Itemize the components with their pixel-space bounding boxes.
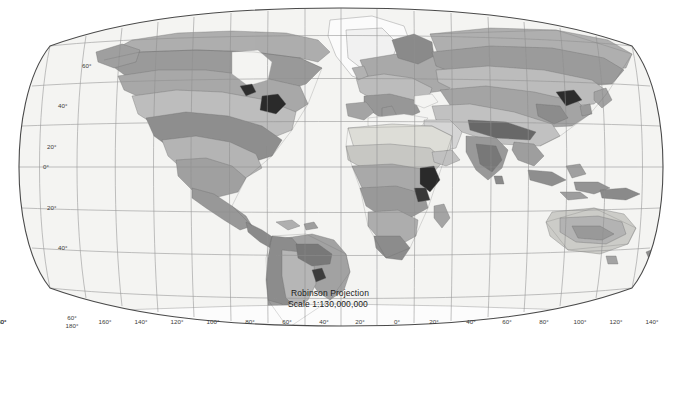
map-scale-caption: Scale 1:130,000,000	[288, 299, 368, 310]
longitude-label-5: 80°	[245, 318, 254, 325]
longitude-label-8: 20°	[355, 318, 364, 325]
longitude-label-9: 0°	[394, 318, 400, 325]
longitude-label-1: 160°	[99, 318, 112, 325]
soil-orders-map-page: Robinson Projection Scale 1:130,000,000 …	[0, 0, 682, 403]
corner-label-60-south: 60°	[67, 314, 76, 321]
legend: Soil Orders AlfisolsAndisolsAridisolsEnt…	[0, 352, 682, 403]
latitude-label-3: 0°	[43, 163, 49, 170]
longitude-label-3: 120°	[171, 318, 184, 325]
longitude-label-18: 180°	[0, 318, 6, 325]
longitude-label-6: 60°	[282, 318, 291, 325]
latitude-label-4: 20°	[47, 204, 56, 211]
map-projection-caption: Robinson Projection	[291, 288, 369, 299]
latitude-label-2: 20°	[47, 143, 56, 150]
longitude-label-2: 140°	[135, 318, 148, 325]
latitude-label-5: 40°	[58, 244, 67, 251]
longitude-label-180-west: 180°	[66, 322, 79, 329]
longitude-label-15: 120°	[610, 318, 623, 325]
longitude-label-14: 100°	[574, 318, 587, 325]
longitude-label-4: 100°	[207, 318, 220, 325]
latitude-label-1: 40°	[58, 102, 67, 109]
longitude-label-13: 80°	[539, 318, 548, 325]
world-map-figure: Robinson Projection Scale 1:130,000,000 …	[0, 0, 682, 345]
longitude-label-7: 40°	[319, 318, 328, 325]
longitude-label-12: 60°	[502, 318, 511, 325]
longitude-label-16: 140°	[646, 318, 659, 325]
longitude-label-11: 40°	[466, 318, 475, 325]
latitude-label-60-north: 60°	[82, 62, 91, 69]
longitude-label-10: 20°	[429, 318, 438, 325]
